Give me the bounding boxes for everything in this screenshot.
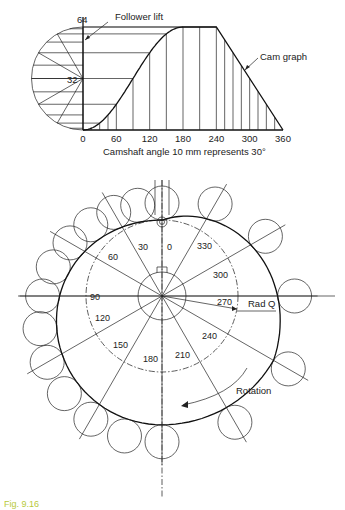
rotation-label: Rotation	[236, 385, 271, 396]
radial-line	[27, 296, 162, 374]
angle-label: 270	[217, 297, 232, 307]
rad-q-label: Rad Q	[248, 298, 275, 309]
y-label-32: 32	[67, 74, 78, 85]
x-tick-labels: 060120180240300360	[80, 133, 291, 144]
semicircle-radius	[57, 79, 83, 124]
cam-drawing: 64 32 Follower lift Cam graph 0601201802…	[0, 0, 345, 510]
x-tick-label: 300	[242, 133, 258, 144]
radial-line	[162, 296, 246, 442]
roller-circle	[107, 419, 141, 453]
x-tick-label: 120	[142, 133, 158, 144]
roller-circle	[121, 188, 155, 222]
angle-label: 150	[113, 340, 128, 350]
x-tick-label: 360	[275, 133, 291, 144]
angle-label: 180	[143, 354, 158, 364]
angle-label: 210	[175, 350, 190, 360]
x-tick-label: 180	[175, 133, 191, 144]
angle-label: 330	[197, 241, 212, 251]
radial-line	[102, 192, 162, 296]
angle-label: 120	[95, 313, 110, 323]
y-label-64: 64	[77, 14, 88, 25]
angle-label: 90	[90, 292, 100, 302]
roller-circle	[23, 312, 57, 346]
radial-line	[162, 225, 285, 296]
angle-label: 300	[213, 270, 228, 280]
x-tick-label: 60	[111, 133, 122, 144]
angle-label: 30	[138, 242, 148, 252]
x-tick-label: 0	[80, 133, 85, 144]
x-tick-label: 240	[208, 133, 224, 144]
cam-profile	[18, 180, 335, 497]
radial-line	[79, 296, 162, 439]
figure-caption: Fig. 9.16	[4, 499, 39, 509]
angle-label: 240	[202, 331, 217, 341]
angle-label: 60	[108, 252, 118, 262]
arrowhead	[85, 35, 90, 40]
x-axis-label: Camshaft angle 10 mm represents 30°	[103, 146, 266, 157]
semicircle-radius	[57, 34, 83, 79]
arrowhead	[181, 401, 188, 408]
angle-label: 0	[167, 242, 172, 252]
cam-graph-label: Cam graph	[260, 51, 307, 62]
angle-labels: 0306090120150180210240270300330	[90, 241, 232, 364]
follower-lift-label: Follower lift	[115, 11, 163, 22]
